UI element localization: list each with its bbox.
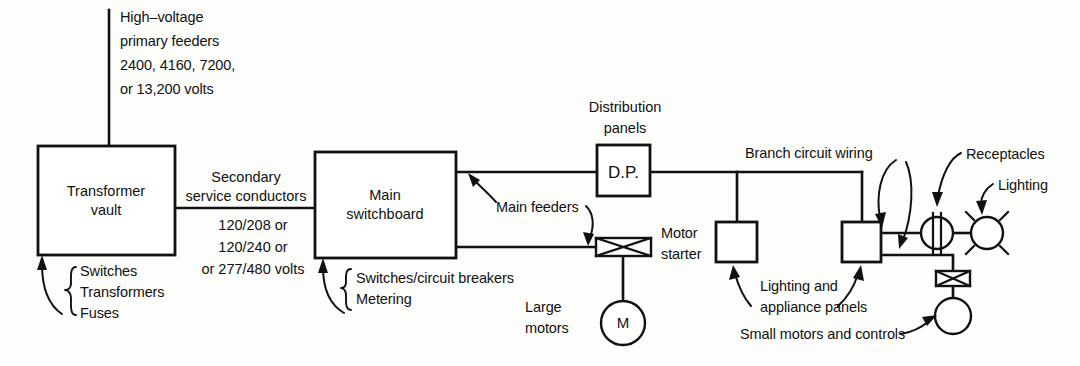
distribution-panels-line1: Distribution — [589, 99, 662, 115]
vault-contents-line3: Fuses — [80, 305, 119, 321]
motor-starter-large-symbol[interactable] — [596, 238, 651, 256]
main-feeders-label: Main feeders — [496, 199, 579, 215]
small-motors-leader — [901, 321, 929, 334]
secondary-voltage-line3: or 277/480 volts — [201, 261, 304, 277]
branch-wiring-lower-leader — [903, 162, 911, 240]
large-motors-line1: Large — [525, 299, 562, 315]
switchboard-contents-line2: Metering — [356, 291, 412, 307]
distribution-panels-line2: panels — [604, 120, 647, 136]
panels-right-arrowhead — [853, 265, 864, 281]
secondary-conductors-line1: Secondary — [211, 169, 281, 185]
primary-feeders-line4: or 13,200 volts — [120, 81, 214, 97]
text-layer: High–voltage primary feeders 2400, 4160,… — [80, 9, 1048, 342]
vault-contents-line2: Transformers — [80, 284, 164, 300]
vault-contents-line1: Switches — [80, 263, 137, 279]
large-motors-line2: motors — [525, 320, 569, 336]
diagram-canvas: Transformer vault Main switchboard D.P. … — [0, 0, 1080, 366]
electrical-distribution-diagram: Transformer vault Main switchboard D.P. … — [0, 0, 1080, 366]
switchboard-contents-arrowhead — [318, 258, 328, 273]
switchboard-contents-line1: Switches/circuit breakers — [356, 270, 514, 286]
receptacles-arrowhead — [932, 192, 943, 207]
lighting-label: Lighting — [998, 177, 1048, 193]
vault-contents-leader — [42, 264, 62, 314]
branch-wiring-lower-arrowhead — [898, 234, 908, 249]
motor-starter-line2: starter — [661, 246, 702, 262]
main-switchboard-label-line1: Main — [369, 187, 400, 203]
main-feeders-upper-leader — [474, 180, 496, 202]
primary-feeders-line1: High–voltage — [120, 9, 203, 25]
transformer-vault-label-line2: vault — [91, 202, 122, 218]
motor-starter-line1: Motor — [661, 225, 698, 241]
lighting-appliance-panels-line2: appliance panels — [760, 299, 867, 315]
secondary-voltage-line2: 120/240 or — [218, 239, 288, 255]
motor-starter-small-symbol[interactable] — [936, 271, 970, 286]
switchboard-contents-leader — [323, 267, 344, 313]
small-motor-symbol[interactable] — [935, 298, 971, 334]
lighting-appliance-panel-right-box[interactable] — [842, 222, 881, 262]
lighting-appliance-panels-line1: Lighting and — [760, 278, 838, 294]
branch-circuit-wiring-label: Branch circuit wiring — [745, 145, 873, 161]
large-motor-symbol[interactable]: M — [601, 301, 645, 345]
lighting-appliance-panel-left-box[interactable] — [716, 222, 757, 262]
lighting-arrowhead — [976, 200, 987, 215]
vault-contents-brace — [65, 267, 76, 315]
small-motor-branch-wire — [881, 255, 953, 271]
receptacles-leader — [938, 153, 961, 196]
main-feeders-lower-arrowhead — [583, 232, 594, 246]
large-motor-letter: M — [617, 314, 630, 331]
main-switchboard-box[interactable] — [315, 152, 456, 258]
lighting-outlet-symbol[interactable] — [966, 212, 1008, 254]
secondary-voltage-line1: 120/208 or — [218, 217, 288, 233]
transformer-vault-label-line1: Transformer — [67, 183, 146, 199]
main-switchboard-label-line2: switchboard — [346, 206, 423, 222]
vault-contents-arrowhead — [37, 255, 47, 270]
panels-left-arrowhead — [729, 265, 740, 280]
secondary-conductors-line2: service conductors — [186, 188, 307, 204]
small-motors-and-controls-label: Small motors and controls — [740, 326, 905, 342]
panels-left-leader — [735, 274, 751, 306]
distribution-panel-label: D.P. — [608, 163, 639, 182]
receptacles-label: Receptacles — [966, 146, 1045, 162]
transformer-vault-box[interactable] — [38, 146, 175, 255]
switchboard-contents-brace — [341, 269, 351, 310]
receptacle-symbol[interactable] — [921, 213, 953, 253]
primary-feeders-line2: primary feeders — [120, 33, 219, 49]
primary-feeders-line3: 2400, 4160, 7200, — [120, 57, 235, 73]
branch-wiring-upper-leader — [879, 160, 896, 218]
